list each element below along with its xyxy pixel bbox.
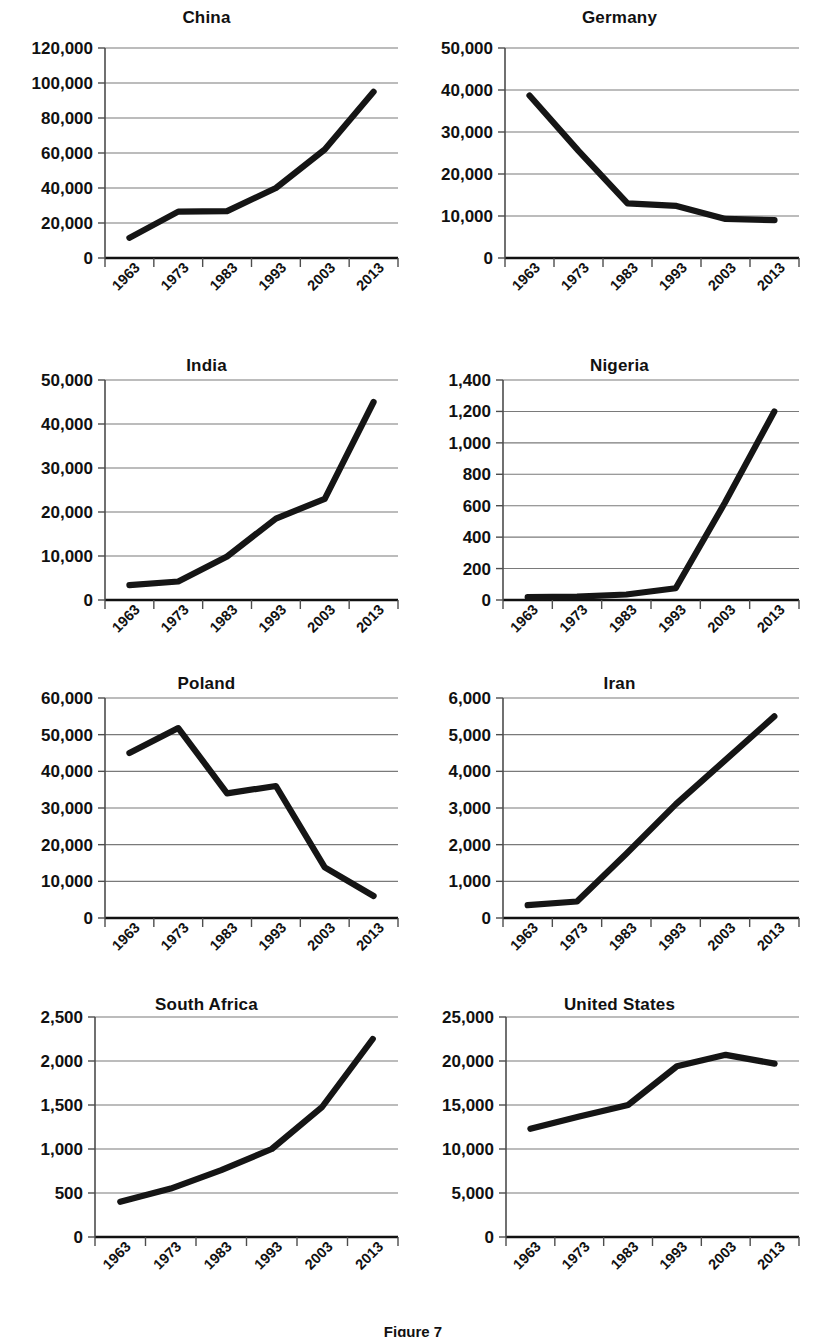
x-axis-tick-label: 1963 <box>109 259 143 293</box>
y-axis-tick-label: 1,000 <box>448 872 491 891</box>
x-axis-tick-label: 2013 <box>754 919 788 953</box>
y-axis-tick-label: 1,200 <box>448 402 491 421</box>
x-axis-tick-label: 1993 <box>255 601 289 635</box>
y-axis-tick-label: 30,000 <box>41 799 93 818</box>
y-axis-tick-label: 2,500 <box>40 1008 83 1027</box>
y-axis-tick-label: 40,000 <box>441 81 493 100</box>
x-axis-tick-label: 1963 <box>507 601 541 635</box>
y-axis-tick-label: 0 <box>484 249 493 268</box>
chart-svg-india: 010,00020,00030,00040,00050,000196319731… <box>0 350 413 670</box>
x-axis-tick-label: 1993 <box>655 919 689 953</box>
y-axis-tick-label: 30,000 <box>41 459 93 478</box>
x-axis-tick-label: 1993 <box>251 1238 285 1272</box>
chart-panel-nigeria: Nigeria 02004006008001,0001,2001,4001963… <box>413 350 826 670</box>
figure-caption: Figure 7 <box>0 1323 826 1337</box>
chart-svg-poland: 010,00020,00030,00040,00050,00060,000196… <box>0 670 413 985</box>
x-axis-tick-label: 2013 <box>353 919 387 953</box>
y-axis-tick-label: 0 <box>84 249 93 268</box>
x-axis-tick-label: 2013 <box>352 1238 386 1272</box>
y-axis-tick-label: 5,000 <box>451 1184 494 1203</box>
y-axis-tick-label: 50,000 <box>41 371 93 390</box>
data-series-line <box>528 716 775 905</box>
y-axis-tick-label: 20,000 <box>41 214 93 233</box>
x-axis-tick-label: 2013 <box>754 1238 788 1272</box>
y-axis-tick-label: 10,000 <box>441 207 493 226</box>
x-axis-tick-label: 1993 <box>655 601 689 635</box>
x-axis-tick-label: 2003 <box>705 259 739 293</box>
x-axis-tick-label: 1963 <box>109 601 143 635</box>
x-axis-tick-label: 2013 <box>754 259 788 293</box>
y-axis-tick-label: 0 <box>84 591 93 610</box>
data-series-line <box>129 92 373 238</box>
x-axis-tick-label: 1993 <box>255 259 289 293</box>
x-axis-tick-label: 1993 <box>656 259 690 293</box>
chart-svg-south-africa: 05001,0001,5002,0002,5001963197319831993… <box>0 985 413 1333</box>
x-axis-tick-label: 1983 <box>607 259 641 293</box>
x-axis-tick-label: 2013 <box>754 601 788 635</box>
y-axis-tick-label: 1,400 <box>448 371 491 390</box>
y-axis-tick-label: 3,000 <box>448 799 491 818</box>
y-axis-tick-label: 25,000 <box>442 1008 494 1027</box>
x-axis-tick-label: 1963 <box>109 919 143 953</box>
chart-panel-india: India 010,00020,00030,00040,00050,000196… <box>0 350 413 670</box>
x-axis-tick-label: 1973 <box>556 601 590 635</box>
x-axis-tick-label: 1973 <box>556 919 590 953</box>
x-axis-tick-label: 2003 <box>704 919 738 953</box>
y-axis-tick-label: 60,000 <box>41 144 93 163</box>
y-axis-tick-label: 6,000 <box>448 689 491 708</box>
y-axis-tick-label: 15,000 <box>442 1096 494 1115</box>
y-axis-tick-label: 0 <box>74 1228 83 1247</box>
y-axis-tick-label: 0 <box>84 909 93 928</box>
x-axis-tick-label: 2003 <box>302 1238 336 1272</box>
x-axis-tick-label: 1973 <box>559 1238 593 1272</box>
y-axis-tick-label: 2,000 <box>448 836 491 855</box>
x-axis-tick-label: 1973 <box>558 259 592 293</box>
y-axis-tick-label: 5,000 <box>448 726 491 745</box>
x-axis-tick-label: 1973 <box>158 601 192 635</box>
y-axis-tick-label: 0 <box>485 1228 494 1247</box>
y-axis-tick-label: 50,000 <box>441 39 493 58</box>
x-axis-tick-label: 1983 <box>606 919 640 953</box>
data-series-line <box>129 402 373 585</box>
x-axis-tick-label: 2003 <box>704 601 738 635</box>
chart-svg-nigeria: 02004006008001,0001,2001,400196319731983… <box>413 350 826 670</box>
y-axis-tick-label: 600 <box>463 497 491 516</box>
data-series-line <box>120 1039 373 1202</box>
y-axis-tick-label: 100,000 <box>32 74 93 93</box>
chart-panel-united-states: United States 05,00010,00015,00020,00025… <box>413 985 826 1333</box>
x-axis-tick-label: 1993 <box>656 1238 690 1272</box>
chart-panel-germany: Germany 010,00020,00030,00040,00050,0001… <box>413 0 826 350</box>
x-axis-tick-label: 2003 <box>304 919 338 953</box>
x-axis-tick-label: 1963 <box>509 259 543 293</box>
x-axis-tick-label: 1983 <box>606 601 640 635</box>
y-axis-tick-label: 20,000 <box>41 836 93 855</box>
y-axis-tick-label: 20,000 <box>442 1052 494 1071</box>
y-axis-tick-label: 0 <box>482 909 491 928</box>
x-axis-tick-label: 1963 <box>100 1238 134 1272</box>
y-axis-tick-label: 20,000 <box>41 503 93 522</box>
x-axis-tick-label: 1983 <box>201 1238 235 1272</box>
x-axis-tick-label: 1973 <box>158 919 192 953</box>
x-axis-tick-label: 2013 <box>353 259 387 293</box>
data-series-line <box>129 728 373 896</box>
y-axis-tick-label: 1,500 <box>40 1096 83 1115</box>
x-axis-tick-label: 1983 <box>206 601 240 635</box>
y-axis-tick-label: 500 <box>55 1184 83 1203</box>
y-axis-tick-label: 40,000 <box>41 179 93 198</box>
y-axis-tick-label: 20,000 <box>441 165 493 184</box>
y-axis-tick-label: 4,000 <box>448 762 491 781</box>
x-axis-tick-label: 1983 <box>206 259 240 293</box>
x-axis-tick-label: 1973 <box>158 259 192 293</box>
chart-svg-china: 020,00040,00060,00080,000100,000120,0001… <box>0 0 413 350</box>
data-series-line <box>530 1055 774 1129</box>
y-axis-tick-label: 800 <box>463 465 491 484</box>
y-axis-tick-label: 200 <box>463 560 491 579</box>
y-axis-tick-label: 50,000 <box>41 726 93 745</box>
x-axis-tick-label: 1973 <box>150 1238 184 1272</box>
x-axis-tick-label: 1983 <box>607 1238 641 1272</box>
y-axis-tick-label: 400 <box>463 528 491 547</box>
data-series-line <box>530 95 775 220</box>
chart-svg-germany: 010,00020,00030,00040,00050,000196319731… <box>413 0 826 350</box>
chart-panel-poland: Poland 010,00020,00030,00040,00050,00060… <box>0 670 413 985</box>
